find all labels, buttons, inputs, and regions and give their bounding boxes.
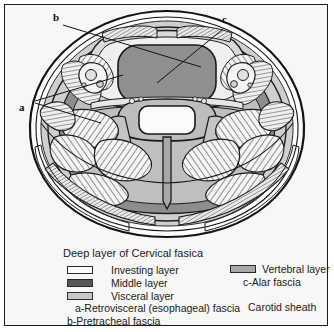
swatch-investing bbox=[67, 266, 93, 274]
swatch-middle bbox=[67, 279, 93, 287]
legend-item-investing: Investing layer bbox=[67, 264, 179, 276]
legend-label-visceral: Visceral layer bbox=[111, 290, 174, 302]
swatch-vertebral bbox=[230, 265, 256, 273]
legend-item-vertebral: Vertebral layer bbox=[230, 263, 330, 275]
callout-label-a: a bbox=[19, 101, 25, 113]
callout-label-c: c bbox=[222, 13, 227, 25]
legend-label-investing: Investing layer bbox=[111, 264, 179, 276]
legend-label-carotid-sheath: Carotid sheath bbox=[248, 301, 316, 313]
legend-label-retrovisceral: a-Retrovisceral (esophageal) fascia bbox=[75, 302, 240, 314]
legend-label-vertebral: Vertebral layer bbox=[262, 263, 330, 275]
figure-frame: a b c Deep layer of Cervical fasica Inve… bbox=[4, 4, 328, 326]
anatomy-illustration bbox=[5, 5, 329, 245]
legend: Deep layer of Cervical fasica Investing … bbox=[5, 243, 329, 327]
swatch-visceral bbox=[67, 292, 93, 300]
legend-label-pretracheal: b-Pretracheal fascia bbox=[67, 315, 160, 327]
legend-item-middle: Middle layer bbox=[67, 277, 168, 289]
legend-title: Deep layer of Cervical fasica bbox=[63, 247, 203, 259]
legend-label-middle: Middle layer bbox=[111, 277, 168, 289]
callout-label-b: b bbox=[53, 11, 59, 23]
legend-label-alar: c-Alar fascia bbox=[243, 276, 301, 288]
legend-item-visceral: Visceral layer bbox=[67, 290, 174, 302]
